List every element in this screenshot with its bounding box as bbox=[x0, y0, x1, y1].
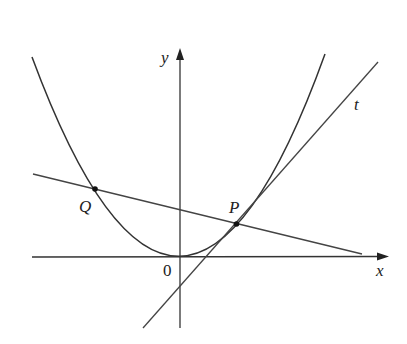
point-q-dot bbox=[92, 186, 98, 192]
point-q-label: Q bbox=[79, 197, 91, 216]
point-p-label: P bbox=[228, 198, 239, 217]
x-axis-arrow-icon bbox=[377, 253, 389, 261]
x-axis bbox=[32, 253, 389, 261]
parabola-curve bbox=[32, 54, 325, 256]
tangent-line-t bbox=[143, 62, 378, 328]
tangent-t-label: t bbox=[354, 95, 360, 114]
x-axis-label: x bbox=[375, 261, 384, 280]
y-axis-label: y bbox=[159, 48, 169, 67]
diagram-canvas: y x 0 P Q t bbox=[0, 0, 407, 344]
point-p-dot bbox=[234, 221, 240, 227]
y-axis-arrow-icon bbox=[176, 48, 184, 60]
origin-label: 0 bbox=[163, 261, 172, 280]
